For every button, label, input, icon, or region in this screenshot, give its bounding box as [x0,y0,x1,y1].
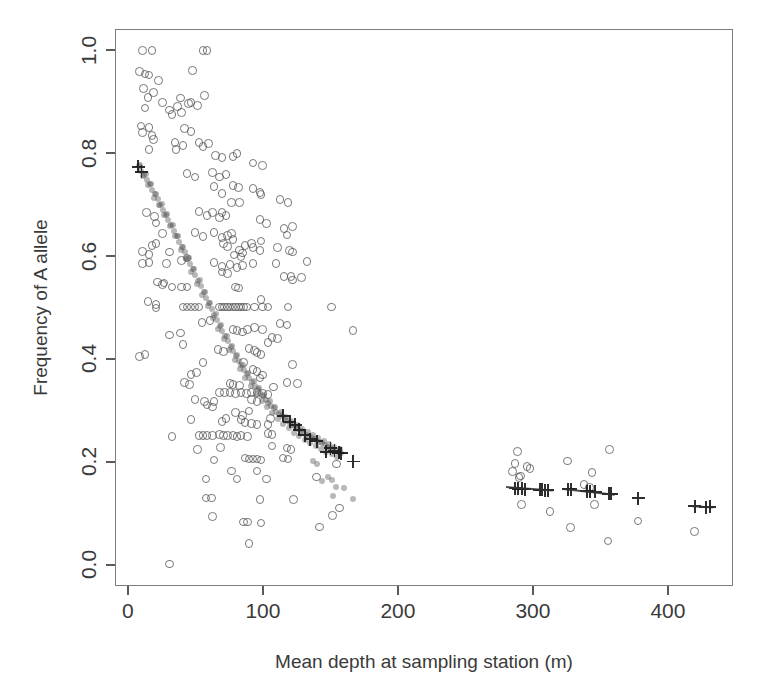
x-axis-tick [397,586,399,595]
data-point-circle [226,379,235,388]
y-axis-tick-label: 0.0 [77,542,100,588]
data-point-circle [187,415,196,424]
data-point-circle [210,182,219,191]
data-point-circle [141,350,150,359]
data-point-circle [177,108,186,117]
data-point-circle [199,232,208,241]
data-point-circle [218,208,227,217]
data-point-circle [605,445,614,454]
data-point-circle [328,511,337,520]
data-point-circle [192,368,201,377]
data-point-circle [183,283,192,292]
data-point-circle [207,494,216,503]
data-point-circle [223,269,232,278]
data-point-circle [566,523,575,532]
data-point-circle [176,329,185,338]
data-point-circle [264,303,273,312]
plus-marker [632,492,645,505]
x-axis-tick [667,586,669,595]
y-axis-tick [106,461,115,463]
x-axis-title: Mean depth at sampling station (m) [124,651,724,673]
data-point-circle [287,445,296,454]
fit-dot [330,493,336,499]
data-point-circle [138,46,147,55]
data-point-circle [191,395,200,404]
fit-dot [261,392,267,398]
data-point-circle [165,331,174,340]
data-point-circle [148,46,157,55]
data-point-circle [222,414,231,423]
data-point-circle [268,430,277,439]
data-point-circle [158,229,167,238]
scatter-plot-figure: Mean depth at sampling station (m) Frequ… [0,0,760,693]
x-axis-tick-label: 0 [93,599,163,623]
data-point-circle [227,467,236,476]
data-point-circle [588,468,597,477]
data-point-circle [563,457,572,466]
data-point-circle [218,189,227,198]
fit-dot [333,484,339,490]
data-point-circle [144,93,153,102]
data-point-circle [154,76,163,85]
plus-marker [347,455,360,468]
data-point-circle [141,104,150,113]
data-point-circle [208,403,217,412]
data-point-circle [513,447,522,456]
fit-dot [232,357,238,363]
data-point-circle [195,303,204,312]
data-point-circle [289,495,298,504]
data-point-circle [293,379,302,388]
y-axis-tick-label: 0.8 [77,130,100,176]
x-axis-tick-label: 200 [363,599,433,623]
data-point-circle [223,242,232,251]
fit-dot [167,223,173,229]
fit-dot [156,202,162,208]
data-point-circle [179,340,188,349]
data-point-circle [152,304,161,313]
data-point-circle [158,280,167,289]
data-point-circle [273,243,282,252]
data-point-circle [303,257,312,266]
data-point-circle [145,71,154,80]
y-axis-tick-label: 1.0 [77,27,100,73]
data-point-circle [335,504,344,513]
data-point-circle [634,517,643,526]
x-axis-tick [127,586,129,595]
fit-dot [314,461,320,467]
data-point-circle [283,378,292,387]
data-point-circle [257,519,266,528]
data-point-circle [253,467,262,476]
y-axis-tick-label: 0.4 [77,336,100,382]
plot-area [115,29,733,586]
data-point-circle [165,248,174,257]
data-point-circle [327,303,336,312]
data-point-circle [283,321,292,330]
y-axis-tick [106,255,115,257]
y-axis-tick-label: 0.2 [77,439,100,485]
data-point-circle [258,371,267,380]
data-point-circle [243,432,252,441]
data-point-circle [288,360,297,369]
data-point-circle [245,539,254,548]
data-point-circle [257,237,266,246]
data-point-circle [315,523,324,532]
data-point-circle [284,303,293,312]
data-point-circle [138,128,147,137]
data-point-circle [256,246,265,255]
data-point-circle [332,460,341,469]
data-point-circle [158,98,167,107]
data-point-circle [200,91,209,100]
fit-dot [194,281,200,287]
y-axis-tick [106,152,115,154]
data-point-circle [284,455,293,464]
data-point-circle [243,325,252,334]
x-axis-tick-label: 300 [498,599,568,623]
data-point-circle [243,518,252,527]
fit-dot [269,410,275,416]
data-point-circle [222,170,231,179]
data-point-circle [202,475,211,484]
data-point-circle [526,464,535,473]
data-point-circle [272,259,281,268]
data-point-circle [193,101,202,110]
data-point-circle [216,443,225,452]
